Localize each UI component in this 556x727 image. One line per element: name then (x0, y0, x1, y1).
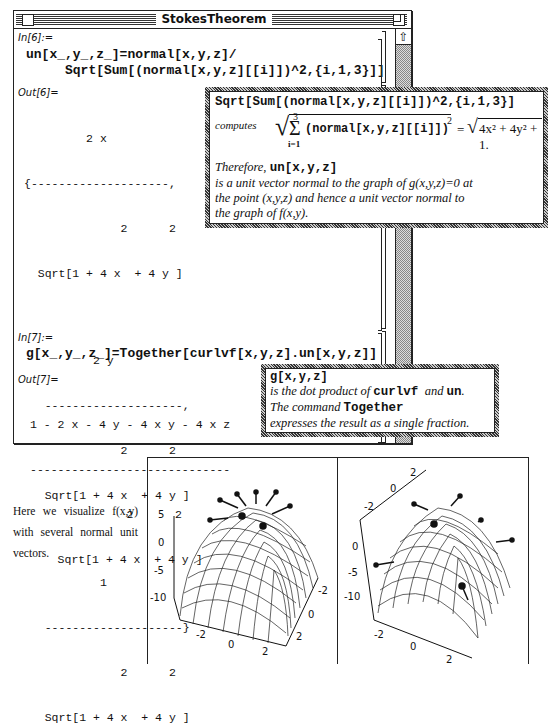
svg-text:2: 2 (296, 631, 302, 642)
zoom-box-icon[interactable] (393, 14, 405, 26)
svg-text:0: 0 (158, 537, 164, 548)
surface-plot-right[interactable]: -2 0 2 0 -5 -10 -2 0 2 (338, 458, 528, 664)
plots-panel: 5 0 -5 -10 -2 0 2 -2 0 2 (147, 457, 529, 664)
scroll-up-arrow-icon[interactable]: ⇧ (396, 29, 411, 45)
svg-text:5: 5 (158, 509, 164, 520)
svg-text:2: 2 (446, 654, 452, 664)
svg-text:0: 0 (390, 483, 396, 494)
note2-header: g[x,y,z] (270, 370, 490, 384)
in6-label: In[6]:= (18, 32, 53, 43)
surface-plot-left[interactable]: 5 0 -5 -10 -2 0 2 -2 0 2 (148, 458, 338, 664)
note1-formula: computes √ 3 Σ i=1 (normal[x,y,z][[i]]) … (215, 112, 538, 154)
note2-line2: The command Together (270, 400, 490, 416)
svg-text:-5: -5 (154, 565, 164, 576)
svg-text:-2: -2 (364, 501, 374, 512)
annotation-note-norm: Sqrt[Sum[(normal[x,y,z][[i]])^2,{i,1,3}]… (205, 87, 548, 228)
note2-line3: expresses the result as a single fractio… (270, 416, 490, 431)
out6-label: Out[6]= (18, 87, 59, 98)
cell-bracket-in6[interactable] (382, 31, 386, 83)
plot-caption: Here we visualize f(x,y) with several no… (13, 501, 138, 564)
cell-bracket-in7[interactable] (382, 331, 386, 365)
note2-line1: is the dot product of curlvf and un. (270, 384, 490, 400)
svg-text:0: 0 (228, 639, 234, 650)
note1-header: Sqrt[Sum[(normal[x,y,z][[i]])^2,{i,1,3}] (215, 94, 538, 110)
in6-line2[interactable]: Sqrt[Sum[(normal[x,y,z][[i]])^2,{i,1,3}]… (26, 63, 385, 79)
in7-line1[interactable]: g[x_,y_,z_]=Together[curlvf[x,y,z].un[x,… (26, 346, 377, 362)
svg-text:-2: -2 (196, 629, 206, 640)
close-box-icon[interactable] (22, 14, 34, 26)
radical-icon: √ (275, 112, 289, 142)
radical-icon-2: √ (467, 114, 478, 138)
in7-label: In[7]:= (18, 332, 53, 343)
title-bar[interactable]: StokesTheorem (14, 11, 411, 29)
window-title: StokesTheorem (159, 12, 269, 27)
note1-therefore: Therefore, un[x,y,z] (215, 160, 538, 176)
svg-text:-2: -2 (318, 585, 328, 596)
out7-label: Out[7]= (18, 374, 59, 385)
svg-text:-2: -2 (374, 629, 384, 640)
svg-text:-5: -5 (348, 567, 358, 578)
note1-text3: the graph of f(x,y). (215, 206, 538, 221)
svg-text:0: 0 (308, 609, 314, 620)
svg-text:0: 0 (410, 641, 416, 652)
in6-line1[interactable]: un[x_,y_,z_]=normal[x,y,z]/ (26, 47, 237, 63)
svg-text:2: 2 (410, 467, 416, 478)
title-stripes-left (16, 14, 156, 25)
sigma-icon: Σ (289, 118, 301, 138)
svg-text:0: 0 (352, 541, 358, 552)
annotation-note-dot-product: g[x,y,z] is the dot product of curlvf an… (261, 364, 499, 437)
svg-text:-10: -10 (150, 592, 166, 603)
note1-text2: the point (x,y,z) and hence a unit vecto… (215, 191, 538, 206)
computes-label: computes (215, 118, 257, 133)
svg-text:-10: -10 (344, 591, 360, 602)
title-stripes-right (272, 14, 407, 25)
radical-bar (289, 114, 451, 115)
note1-text1: is a unit vector normal to the graph of … (215, 176, 538, 191)
svg-text:2: 2 (262, 646, 268, 657)
